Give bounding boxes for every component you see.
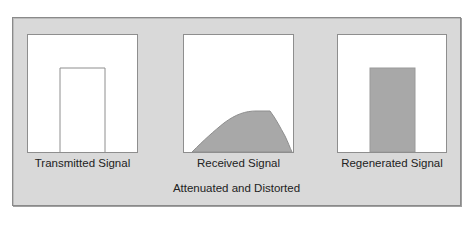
received-signal-curve <box>184 35 293 152</box>
transmitted-signal-label: Transmitted Signal <box>27 157 138 169</box>
regenerated-signal-label: Regenerated Signal <box>337 157 447 169</box>
transmitted-signal-pulse <box>28 35 137 152</box>
transmitted-signal-box <box>27 34 138 153</box>
received-signal-box <box>183 34 294 153</box>
regenerated-signal-pulse <box>338 35 446 152</box>
regenerated-signal-box <box>337 34 447 153</box>
diagram-caption: Attenuated and Distorted <box>12 182 461 194</box>
received-signal-label: Received Signal <box>183 157 294 169</box>
